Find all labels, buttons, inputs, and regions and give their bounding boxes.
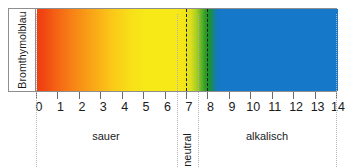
axis-label-1: 1 [57,100,64,114]
range-label-acidic: sauer [92,130,120,142]
axis-tick-11 [272,92,273,99]
axis-tick-9 [229,92,230,99]
indicator-label-cell: Bromthymolblau [9,9,36,91]
ph-gradient-fill [37,9,338,91]
acid-neutral-boundary-line [186,9,187,91]
axis-tick-12 [293,92,294,99]
ph-scale-figure: Bromthymolblau 0 1 2 3 4 5 6 7 8 9 [0,0,345,167]
ph-axis: 0 1 2 3 4 5 6 7 8 9 10 11 12 13 14 sauer… [0,92,345,167]
axis-tick-4 [122,92,123,99]
axis-label-11: 11 [268,100,281,114]
axis-tick-7 [186,92,187,99]
guide-line-ph-0 [36,14,37,167]
axis-tick-13 [315,92,316,99]
axis-label-2: 2 [78,100,85,114]
axis-tick-6 [165,92,166,99]
range-label-neutral: neutral [181,133,193,167]
axis-tick-5 [143,92,144,99]
axis-label-10: 10 [246,100,260,114]
range-label-basic: alkalisch [246,130,288,142]
guide-line-ph-6-5 [177,14,178,167]
guide-line-ph-14 [336,14,337,167]
ph-color-gradient-bar [37,9,338,91]
axis-tick-8 [207,92,208,99]
axis-label-4: 4 [121,100,128,114]
axis-tick-1 [57,92,58,99]
axis-label-14: 14 [331,100,345,114]
axis-tick-2 [79,92,80,99]
axis-label-9: 9 [228,100,235,114]
indicator-box: Bromthymolblau [8,8,337,92]
axis-label-12: 12 [289,100,303,114]
guide-line-ph-7-5 [198,14,199,167]
axis-label-3: 3 [100,100,107,114]
axis-label-5: 5 [143,100,150,114]
indicator-name-label: Bromthymolblau [16,11,28,88]
axis-tick-10 [250,92,251,99]
axis-label-13: 13 [311,100,325,114]
axis-label-6: 6 [164,100,171,114]
neutral-base-boundary-line [207,9,208,91]
axis-label-7: 7 [186,100,193,114]
axis-label-8: 8 [207,100,214,114]
axis-tick-3 [100,92,101,99]
